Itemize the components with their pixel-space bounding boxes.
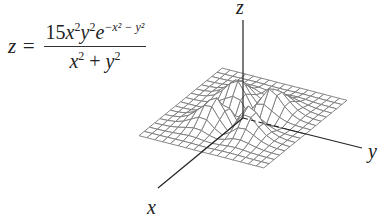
z-axis-label: z xyxy=(236,0,244,19)
surface-equation: z = 15x2y2e−x² − y² x2 + y2 xyxy=(8,20,146,73)
numerator: 15x2y2e−x² − y² xyxy=(44,20,147,46)
x-axis-label: x xyxy=(147,196,156,219)
fraction: 15x2y2e−x² − y² x2 + y2 xyxy=(44,20,147,73)
y-axis-label: y xyxy=(368,140,377,163)
denominator: x2 + y2 xyxy=(69,47,120,73)
equation-lhs: z = xyxy=(8,34,36,59)
